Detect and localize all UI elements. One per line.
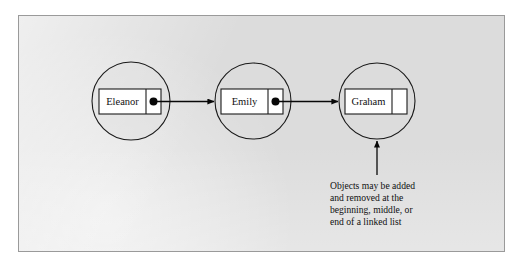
node-label: Graham <box>352 96 386 107</box>
list-node-graham: Graham <box>339 63 415 139</box>
linked-list-diagram: Eleanor Emily Graham Objects may be adde… <box>0 0 525 267</box>
node-label: Eleanor <box>106 96 139 107</box>
callout-caption: Objects may be added and removed at the … <box>330 180 415 227</box>
caption-line: end of a linked list <box>330 216 402 227</box>
caption-line: beginning, middle, or <box>330 204 413 215</box>
caption-line: Objects may be added <box>330 180 415 191</box>
figure-screenshot: Eleanor Emily Graham Objects may be adde… <box>0 0 525 267</box>
node-label: Emily <box>232 96 258 107</box>
caption-line: and removed at the <box>330 192 403 203</box>
